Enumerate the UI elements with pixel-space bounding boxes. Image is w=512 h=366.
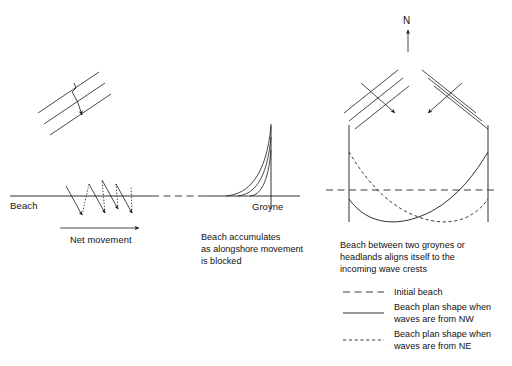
legend-label-nw-line-2: waves are from NW xyxy=(393,314,474,324)
right-caption-line-1: Beach between two groynes or xyxy=(340,240,465,250)
longshore-drift-diagram: Beach Net movement Groyne N Beach accumu… xyxy=(0,0,512,366)
right-caption-line-2: headlands aligns itself to the xyxy=(340,252,455,262)
legend-label-initial-beach: Initial beach xyxy=(394,287,443,297)
legend-label-ne-line-2: waves are from NE xyxy=(393,341,471,351)
middle-caption-line-2: as alongshore movement xyxy=(201,244,304,254)
net-movement-label: Net movement xyxy=(70,235,132,245)
swash-backwash-zigzag xyxy=(66,180,132,215)
north-label: N xyxy=(403,15,410,26)
right-caption-line-3: incoming wave crests xyxy=(340,264,427,274)
legend-label-nw-line-1: Beach plan shape when xyxy=(394,302,491,312)
groyne-label: Groyne xyxy=(252,201,283,212)
beach-label: Beach xyxy=(10,200,38,211)
left-wave-crest-group xyxy=(38,72,111,135)
beach-accumulation-curves xyxy=(226,126,271,196)
ne-wave-crest-group xyxy=(422,70,488,129)
diagram-canvas: Beach Net movement Groyne N Beach accumu… xyxy=(0,0,512,366)
middle-caption-line-1: Beach accumulates xyxy=(201,232,281,242)
beach-plan-shape-ne-curve xyxy=(349,152,488,222)
beach-plan-shape-nw-curve xyxy=(349,152,488,222)
middle-caption-line-3: is blocked xyxy=(201,256,241,266)
nw-wave-direction-arrow xyxy=(361,83,395,113)
nw-wave-crest-group xyxy=(344,70,409,129)
legend-label-ne-line-1: Beach plan shape when xyxy=(394,329,491,339)
